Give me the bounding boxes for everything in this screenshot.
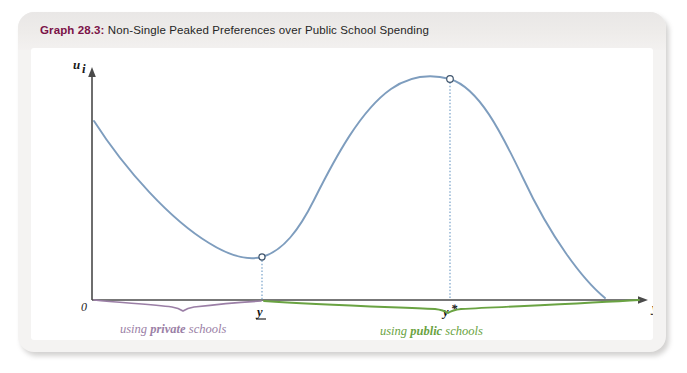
- tick-label-local-min-group: y: [255, 305, 266, 319]
- plot-panel: u i y 0 y: [31, 48, 653, 340]
- origin-label: 0: [81, 300, 87, 314]
- y-axis-label-subscript: i: [82, 61, 86, 76]
- brace-label-private-prefix: using: [120, 322, 150, 336]
- brace-label-public: using public schools: [380, 324, 483, 338]
- tick-label-local-min: y: [255, 305, 263, 319]
- caption-label: Graph 28.3:: [40, 24, 105, 36]
- figure-card: Graph 28.3: Non-Single Peaked Preference…: [18, 12, 666, 352]
- brace-label-public-strong: public: [409, 324, 442, 338]
- droplines-group: [262, 79, 450, 300]
- figure-caption: Graph 28.3: Non-Single Peaked Preference…: [40, 23, 429, 37]
- utility-curve: [94, 76, 605, 298]
- markers-group: [259, 76, 453, 260]
- axes-group: [88, 67, 648, 304]
- y-axis-arrowhead: [88, 67, 96, 77]
- brace-label-private-suffix: schools: [186, 322, 227, 336]
- brace-private: [94, 300, 261, 311]
- figure-root: Graph 28.3: Non-Single Peaked Preference…: [0, 0, 687, 373]
- plot-svg: u i y 0 y: [31, 48, 653, 340]
- caption-text: Non-Single Peaked Preferences over Publi…: [108, 24, 429, 36]
- brace-label-private-strong: private: [149, 322, 186, 336]
- brace-label-private: using private schools: [120, 322, 226, 336]
- peak-marker: [447, 76, 454, 83]
- local-min-marker: [259, 254, 265, 260]
- brace-label-public-suffix: schools: [442, 324, 483, 338]
- y-axis-label: u: [73, 57, 80, 72]
- x-axis-label: y: [650, 300, 653, 315]
- brace-label-public-prefix: using: [380, 324, 410, 338]
